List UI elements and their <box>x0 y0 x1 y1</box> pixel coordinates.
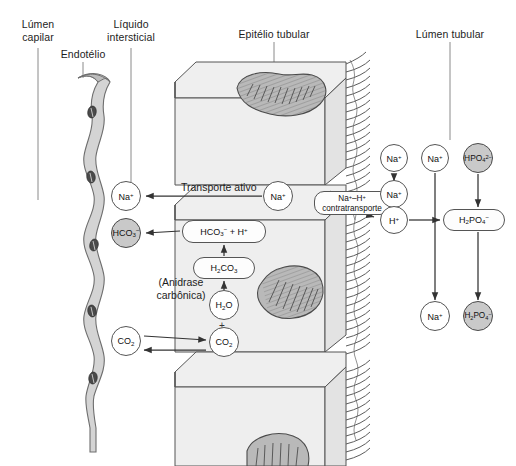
brush-border-microvilli <box>346 52 370 460</box>
node-na-lumen-free: Na+ <box>421 144 449 172</box>
node-hco3-h-cell: HCO3− + H+ <box>182 220 266 243</box>
node-hpo4-lumen: HPO42− <box>463 143 493 173</box>
node-co2-cell: CO2 <box>209 327 239 357</box>
region-label-endotelio: Endotélio <box>52 48 114 61</box>
node-h2po4-excreted: H2PO4− <box>463 301 493 331</box>
region-label-epitelio-tubular: Epitélio tubular <box>226 28 322 41</box>
node-na-interstitial: Na+ <box>111 181 141 211</box>
epithelial-cell-top <box>175 62 346 185</box>
node-na-lumen-top: Na+ <box>380 144 408 172</box>
node-h2co3-cell: H2CO3 <box>193 257 255 279</box>
node-contratransporte: Na+–H+contratransporte <box>314 191 390 215</box>
label-anidrase-carbonica: (Anidrase carbônica) <box>147 276 215 301</box>
node-na-lumen-bottom: Na+ <box>420 301 450 331</box>
region-label-lumen-capilar: Lúmen capilar <box>8 18 68 43</box>
figure-canvas: Lúmen capilar Líquido intersticial Endot… <box>0 0 516 466</box>
region-label-lumen-tubular: Lúmen tubular <box>404 28 496 41</box>
node-na-cell: Na+ <box>263 181 293 211</box>
node-h2po4-lumen: H2PO4− <box>443 209 505 231</box>
node-h-lumen: H+ <box>380 206 408 234</box>
region-label-liquido-intersticial: Líquido intersticial <box>94 18 168 43</box>
node-na-lumen-mid: Na+ <box>380 180 408 208</box>
epithelial-cell-bottom <box>175 352 346 466</box>
node-co2-interstitial: CO2 <box>111 326 141 356</box>
capillary-endothelium <box>78 74 110 452</box>
node-hco3-interstitial: HCO3− <box>111 218 141 248</box>
node-h2o-cell: H2O <box>209 290 239 320</box>
